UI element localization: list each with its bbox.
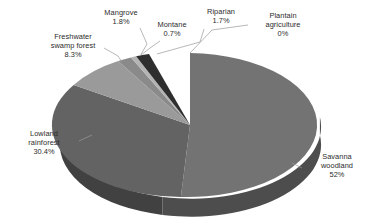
slice-label-lowland-rainforest: Lowland rainforest 30.4%: [10, 129, 78, 156]
pie-chart-figure: Mangrove 1.8% Montane 0.7% Riparian 1.7%…: [0, 0, 380, 218]
slice-label-montane-percent: 0.7%: [150, 29, 194, 38]
slice-label-lowland-rainforest-name-line1: Lowland: [10, 129, 78, 138]
slice-label-lowland-rainforest-name-line2: rainforest: [10, 138, 78, 147]
slice-label-riparian-name: Riparian: [196, 7, 246, 16]
leader-line-plantain-agriculture: [190, 25, 248, 53]
slice-label-plantain-agriculture-name-line1: Plantain: [252, 11, 314, 20]
slice-label-savanna-woodland-percent: 52%: [304, 170, 370, 179]
slice-label-lowland-rainforest-percent: 30.4%: [10, 147, 78, 156]
slice-label-plantain-agriculture-percent: 0%: [252, 29, 314, 38]
slice-label-plantain-agriculture: Plantain agriculture 0%: [252, 11, 314, 38]
slice-label-mangrove: Mangrove 1.8%: [96, 8, 146, 26]
pie-top-surface: [52, 53, 317, 197]
slice-label-riparian: Riparian 1.7%: [196, 7, 246, 25]
slice-label-savanna-woodland-name-line2: woodland: [304, 161, 370, 170]
slice-label-freshwater-swamp-forest-percent: 8.3%: [36, 50, 110, 59]
slice-label-savanna-woodland: Savanna woodland 52%: [304, 152, 370, 179]
slice-label-mangrove-percent: 1.8%: [96, 17, 146, 26]
slice-label-montane: Montane 0.7%: [150, 20, 194, 38]
slice-label-freshwater-swamp-forest-name-line1: Freshwater: [36, 32, 110, 41]
slice-label-savanna-woodland-name-line1: Savanna: [304, 152, 370, 161]
leader-line-montane: [141, 41, 160, 55]
slice-label-freshwater-swamp-forest: Freshwater swamp forest 8.3%: [36, 32, 110, 59]
slice-label-freshwater-swamp-forest-name-line2: swamp forest: [36, 41, 110, 50]
slice-label-riparian-percent: 1.7%: [196, 16, 246, 25]
leader-line-mangrove: [140, 28, 147, 56]
slice-label-plantain-agriculture-name-line2: agriculture: [252, 20, 314, 29]
slice-label-mangrove-name: Mangrove: [96, 8, 146, 17]
slice-label-montane-name: Montane: [150, 20, 194, 29]
